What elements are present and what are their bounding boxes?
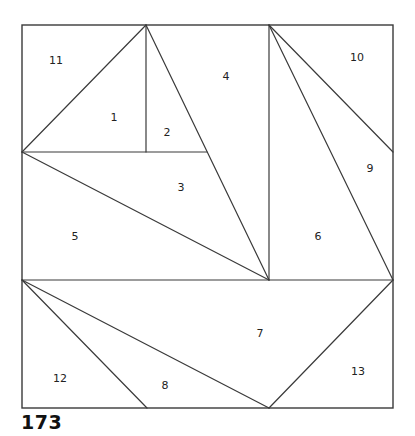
piece-label-2: 2: [164, 126, 171, 139]
piece-label-10: 10: [350, 51, 364, 64]
seam-line-b-to-right-mid: [269, 25, 393, 152]
seam-line-left-center-to-bottom-mid: [22, 280, 269, 408]
piece-label-9: 9: [367, 162, 374, 175]
piece-label-8: 8: [162, 379, 169, 392]
seam-line-a-to-left: [22, 25, 146, 152]
outer-frame: [22, 25, 393, 408]
seam-line-right-center-to-bottom-mid: [269, 280, 393, 408]
seam-line-left-center-to-bottom: [22, 280, 147, 408]
piece-label-4: 4: [223, 70, 230, 83]
seam-lines: [22, 25, 393, 408]
piece-labels: 12345678910111213: [49, 51, 374, 392]
piece-label-5: 5: [72, 230, 79, 243]
piece-label-6: 6: [315, 230, 322, 243]
piece-label-11: 11: [49, 54, 63, 67]
piece-label-12: 12: [53, 372, 67, 385]
piece-label-3: 3: [178, 181, 185, 194]
paper-piecing-diagram: 12345678910111213: [0, 0, 415, 436]
piece-label-13: 13: [351, 365, 365, 378]
pattern-number: 173: [21, 411, 62, 433]
piece-label-1: 1: [111, 111, 118, 124]
piece-label-7: 7: [257, 327, 264, 340]
seam-line-b-to-right-center: [269, 25, 393, 280]
seam-line-left-to-center: [22, 152, 269, 280]
